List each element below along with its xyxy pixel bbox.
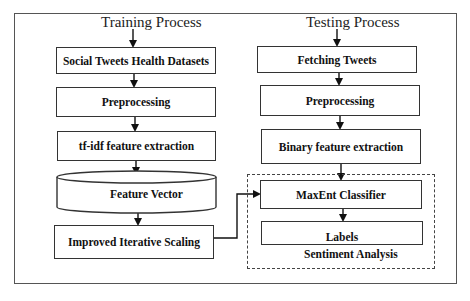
sentiment-analysis-label: Sentiment Analysis xyxy=(304,248,398,260)
fetching-tweets-box: Fetching Tweets xyxy=(257,46,417,73)
binary-feature-extraction-box: Binary feature extraction xyxy=(261,129,421,164)
social-tweets-datasets-box: Social Tweets Health Datasets xyxy=(56,47,216,74)
testing-process-title: Testing Process xyxy=(306,14,400,31)
maxent-classifier-box: MaxEnt Classifier xyxy=(260,180,422,209)
training-process-title: Training Process xyxy=(101,14,202,31)
feature-vector-cylinder: Feature Vector xyxy=(110,188,183,200)
labels-box: Labels xyxy=(261,221,423,245)
tfidf-extraction-box: tf-idf feature extraction xyxy=(57,131,216,161)
testing-preprocessing-box: Preprocessing xyxy=(260,85,420,116)
training-preprocessing-box: Preprocessing xyxy=(56,87,216,117)
improved-iterative-scaling-box: Improved Iterative Scaling xyxy=(54,225,214,259)
